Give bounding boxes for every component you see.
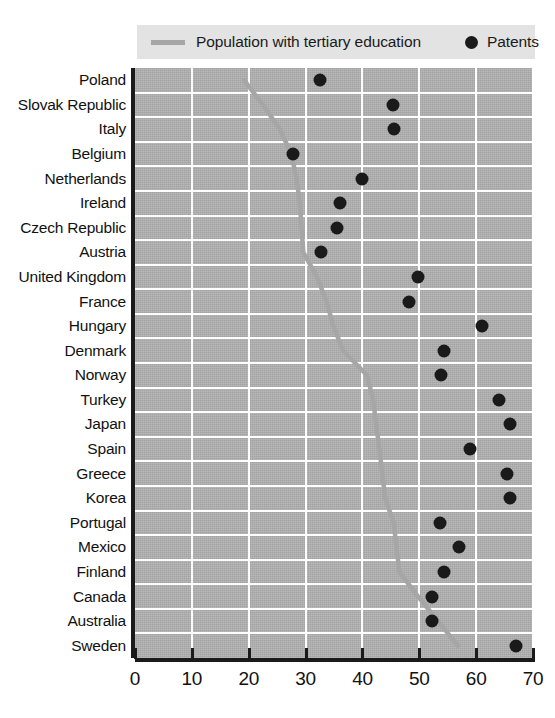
data-point-patents-austria	[314, 246, 327, 259]
data-point-patents-japan	[504, 418, 517, 431]
legend-item-patents: Patents	[465, 33, 539, 51]
data-point-patents-greece	[500, 467, 513, 480]
y-axis-label-poland: Poland	[0, 71, 126, 89]
y-axis-label-ireland: Ireland	[0, 194, 126, 212]
x-tick-label-0: 0	[130, 668, 140, 690]
y-axis-label-sweden: Sweden	[0, 637, 126, 655]
data-point-patents-norway	[435, 369, 448, 382]
data-point-patents-united-kingdom	[412, 270, 425, 283]
line-path-population-tertiary-education	[244, 80, 458, 645]
x-tick-0	[134, 648, 137, 659]
y-axis-label-denmark: Denmark	[0, 342, 126, 360]
y-axis-label-hungary: Hungary	[0, 317, 126, 335]
line-swatch-icon	[151, 40, 185, 45]
data-point-patents-ireland	[334, 197, 347, 210]
data-point-patents-netherlands	[356, 172, 369, 185]
data-point-patents-portugal	[433, 516, 446, 529]
y-axis-label-slovak-republic: Slovak Republic	[0, 96, 126, 114]
x-tick-label-10: 10	[182, 668, 203, 690]
y-axis-label-united-kingdom: United Kingdom	[0, 268, 126, 286]
data-point-patents-czech-republic	[330, 221, 343, 234]
plot-area	[135, 68, 533, 658]
y-axis-label-france: France	[0, 293, 126, 311]
y-axis-label-spain: Spain	[0, 440, 126, 458]
y-axis-label-netherlands: Netherlands	[0, 170, 126, 188]
data-point-patents-mexico	[452, 541, 465, 554]
data-point-patents-denmark	[437, 344, 450, 357]
legend-item-population: Population with tertiary education	[151, 33, 421, 51]
y-axis-label-mexico: Mexico	[0, 538, 126, 556]
x-tick-label-70: 70	[523, 668, 544, 690]
y-axis-label-belgium: Belgium	[0, 145, 126, 163]
data-point-patents-france	[403, 295, 416, 308]
y-axis-label-greece: Greece	[0, 465, 126, 483]
population-tertiary-education-line	[135, 68, 533, 658]
dot-swatch-icon	[465, 36, 478, 49]
data-point-patents-australia	[425, 615, 438, 628]
chart-legend: Population with tertiary education Paten…	[137, 25, 535, 59]
x-tick-30	[305, 648, 308, 659]
y-axis-label-korea: Korea	[0, 489, 126, 507]
x-tick-20	[248, 648, 251, 659]
y-axis-label-turkey: Turkey	[0, 391, 126, 409]
data-point-patents-spain	[463, 443, 476, 456]
data-point-patents-turkey	[492, 393, 505, 406]
data-point-patents-sweden	[509, 639, 522, 652]
data-point-patents-hungary	[475, 320, 488, 333]
x-tick-10	[191, 648, 194, 659]
x-tick-40	[361, 648, 364, 659]
x-tick-label-60: 60	[466, 668, 487, 690]
chart-root: Population with tertiary education Paten…	[0, 0, 555, 718]
legend-label-population: Population with tertiary education	[196, 33, 421, 51]
data-point-patents-slovak-republic	[387, 98, 400, 111]
data-point-patents-korea	[504, 492, 517, 505]
legend-label-patents: Patents	[487, 33, 539, 51]
y-axis-label-canada: Canada	[0, 588, 126, 606]
data-point-patents-canada	[425, 590, 438, 603]
y-axis-label-norway: Norway	[0, 366, 126, 384]
y-axis-label-czech-republic: Czech Republic	[0, 219, 126, 237]
x-tick-label-40: 40	[352, 668, 373, 690]
y-axis-label-italy: Italy	[0, 120, 126, 138]
y-axis-label-finland: Finland	[0, 563, 126, 581]
data-point-patents-poland	[313, 74, 326, 87]
x-tick-label-30: 30	[295, 668, 316, 690]
y-axis-label-portugal: Portugal	[0, 514, 126, 532]
y-axis-label-japan: Japan	[0, 415, 126, 433]
data-point-patents-italy	[387, 123, 400, 136]
x-tick-label-20: 20	[238, 668, 259, 690]
data-point-patents-finland	[438, 565, 451, 578]
x-tick-60	[475, 648, 478, 659]
x-tick-50	[418, 648, 421, 659]
y-axis-category-labels: PolandSlovak RepublicItalyBelgiumNetherl…	[0, 68, 126, 658]
x-tick-label-50: 50	[409, 668, 430, 690]
y-axis-label-australia: Australia	[0, 612, 126, 630]
x-tick-70	[532, 648, 535, 659]
y-axis-label-austria: Austria	[0, 243, 126, 261]
data-point-patents-belgium	[287, 148, 300, 161]
